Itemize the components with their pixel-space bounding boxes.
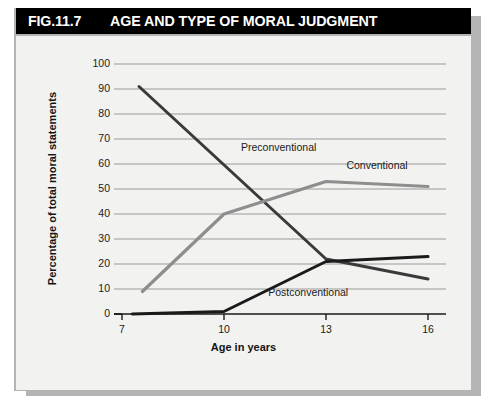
y-tick-label: 60 bbox=[84, 157, 110, 169]
figure-number: FIG.11.7 bbox=[28, 12, 81, 30]
y-tick-label: 10 bbox=[84, 282, 110, 294]
gridlines bbox=[122, 64, 446, 289]
series-label-preconventional: Preconventional bbox=[241, 141, 316, 153]
figure-header: FIG.11.7 AGE AND TYPE OF MORAL JUDGMENT bbox=[16, 8, 471, 34]
series-label-postconventional: Postconventional bbox=[268, 286, 348, 298]
y-tick-label: 40 bbox=[84, 207, 110, 219]
x-axis-title: Age in years bbox=[0, 341, 487, 353]
y-tick-label: 100 bbox=[84, 57, 110, 69]
x-tick-label: 7 bbox=[107, 323, 137, 335]
x-tick-label: 16 bbox=[413, 323, 443, 335]
y-tick-label: 90 bbox=[84, 82, 110, 94]
y-tick-label: 70 bbox=[84, 132, 110, 144]
data-series-group bbox=[132, 87, 428, 315]
y-tick-label: 20 bbox=[84, 257, 110, 269]
y-tick-label: 0 bbox=[84, 307, 110, 319]
figure-container: Source: Kohlberg (1963) FIG.11.7 AGE AND… bbox=[0, 0, 487, 409]
x-tick-label: 13 bbox=[311, 323, 341, 335]
y-axis-title-text: Percentage of total moral statements bbox=[46, 92, 58, 285]
y-axis-title: Percentage of total moral statements bbox=[44, 60, 60, 318]
y-tick-label: 30 bbox=[84, 232, 110, 244]
x-axis-ticks bbox=[122, 314, 428, 320]
y-tick-label: 50 bbox=[84, 182, 110, 194]
x-tick-label: 10 bbox=[209, 323, 239, 335]
series-label-conventional: Conventional bbox=[346, 159, 407, 171]
figure-title: AGE AND TYPE OF MORAL JUDGMENT bbox=[110, 12, 377, 30]
y-tick-label: 80 bbox=[84, 107, 110, 119]
